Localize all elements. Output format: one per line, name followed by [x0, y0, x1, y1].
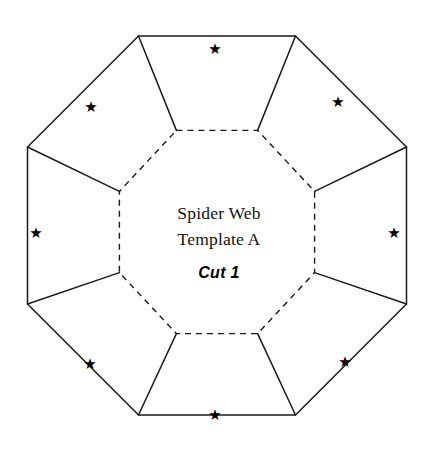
star-top-left-icon: ★ — [84, 98, 97, 116]
fold-line-4 — [315, 273, 407, 304]
star-bottom-right-icon: ★ — [338, 353, 351, 371]
cut-count-label: Cut 1 — [198, 264, 240, 281]
fold-line-3 — [315, 147, 407, 191]
fold-line-2 — [258, 36, 296, 130]
fold-line-1 — [139, 36, 177, 130]
star-bottom-icon: ★ — [208, 406, 221, 424]
template-page: ★ ★ ★ ★ ★ ★ ★ ★ Spider Web Template A Cu… — [0, 0, 433, 452]
template-title-line-2: Template A — [178, 229, 261, 249]
center-label-group: Spider Web Template A Cut 1 — [177, 203, 260, 281]
star-top-right-icon: ★ — [331, 93, 344, 111]
template-title-line-1: Spider Web — [177, 203, 260, 223]
spider-web-template-diagram: ★ ★ ★ ★ ★ ★ ★ ★ Spider Web Template A Cu… — [0, 0, 433, 452]
star-top-icon: ★ — [208, 40, 221, 58]
fold-line-5 — [258, 334, 296, 415]
star-bottom-left-icon: ★ — [83, 355, 96, 373]
star-left-icon: ★ — [29, 224, 42, 242]
star-right-icon: ★ — [387, 224, 400, 242]
fold-line-8 — [28, 147, 120, 191]
fold-line-7 — [28, 273, 120, 304]
fold-line-6 — [139, 334, 177, 415]
